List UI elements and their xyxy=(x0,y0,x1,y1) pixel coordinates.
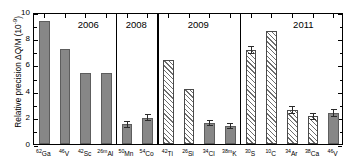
plot-area xyxy=(33,13,343,145)
error-bar-cap-bottom xyxy=(310,119,316,120)
x-label-element: V xyxy=(333,150,337,157)
bar xyxy=(184,89,195,144)
bar xyxy=(142,118,153,144)
error-bar-cap-bottom xyxy=(248,53,254,54)
bar xyxy=(163,60,174,144)
x-tick-mark xyxy=(251,14,252,18)
x-label-element: S xyxy=(251,150,255,157)
error-bar-cap-bottom xyxy=(289,113,295,114)
bar xyxy=(287,110,298,144)
error-bar-cap-top xyxy=(310,113,316,114)
y-tick-mark xyxy=(34,66,38,67)
y-minor-tick-mark xyxy=(34,106,37,107)
error-bar-cap-bottom xyxy=(227,128,233,129)
x-label-mass-number: 38m xyxy=(222,148,232,154)
error-bar-cap-top xyxy=(124,121,130,122)
bar xyxy=(80,73,91,144)
error-bar xyxy=(331,109,337,117)
y-tick-mark xyxy=(338,40,342,41)
y-minor-tick-mark xyxy=(340,106,343,107)
x-tick-mark xyxy=(168,14,169,18)
error-bar-cap-bottom xyxy=(124,127,130,128)
y-minor-tick-mark xyxy=(34,132,37,133)
x-tick-mark xyxy=(313,14,314,18)
error-bar-cap-top xyxy=(248,46,254,47)
group-year-label-2011: 2011 xyxy=(252,19,355,30)
error-bar-cap-top xyxy=(289,106,295,107)
y-tick-mark xyxy=(338,14,342,15)
error-bar-cap-bottom xyxy=(207,125,213,126)
error-bar-cap-top xyxy=(227,123,233,124)
x-tick-mark xyxy=(147,14,148,18)
group-year-label-2009: 2009 xyxy=(157,19,240,30)
y-tick-label: 2 xyxy=(0,114,30,122)
y-axis-title-suffix: ) xyxy=(13,16,23,19)
y-tick-mark xyxy=(338,146,342,147)
error-bar xyxy=(310,113,316,120)
bar xyxy=(266,31,277,144)
group-separator xyxy=(116,14,117,144)
x-tick-mark xyxy=(85,14,86,18)
y-tick-mark xyxy=(338,93,342,94)
y-tick-mark xyxy=(34,119,38,120)
x-tick-mark xyxy=(271,14,272,18)
y-tick-label: 10 xyxy=(0,9,30,17)
x-tick-mark xyxy=(189,14,190,18)
x-tick-mark xyxy=(230,14,231,18)
error-bar-cap-top xyxy=(331,109,337,110)
y-axis-title-container: Relative precision ΔQ/M (10-9) xyxy=(0,0,18,152)
y-tick-label: 8 xyxy=(0,35,30,43)
y-minor-tick-mark xyxy=(34,27,37,28)
x-label-element: Cl xyxy=(208,150,214,157)
y-axis-title-exponent: -9 xyxy=(11,19,18,25)
y-axis-title: Relative precision ΔQ/M (10-9) xyxy=(11,0,23,147)
y-minor-tick-mark xyxy=(340,132,343,133)
x-tick-label: 46V xyxy=(319,149,347,158)
x-tick-mark xyxy=(127,14,128,18)
error-bar xyxy=(248,46,254,54)
y-tick-label: 6 xyxy=(0,61,30,69)
x-tick-mark xyxy=(292,14,293,18)
bar xyxy=(328,113,339,144)
x-label-element: Si xyxy=(188,150,194,157)
y-minor-tick-mark xyxy=(34,80,37,81)
x-tick-mark xyxy=(65,14,66,18)
bar xyxy=(60,49,71,144)
error-bar xyxy=(227,123,233,130)
group-separator xyxy=(240,14,241,144)
y-tick-label: 4 xyxy=(0,88,30,96)
x-tick-mark xyxy=(333,14,334,18)
y-tick-mark xyxy=(338,66,342,67)
y-tick-mark xyxy=(34,146,38,147)
y-minor-tick-mark xyxy=(340,53,343,54)
group-year-label-2008: 2008 xyxy=(116,19,157,30)
bar xyxy=(246,50,257,144)
y-tick-label: 0 xyxy=(0,141,30,149)
x-label-element: V xyxy=(65,150,69,157)
group-separator xyxy=(157,14,158,144)
error-bar-cap-top xyxy=(207,120,213,121)
bar xyxy=(101,73,112,144)
x-label-element: Ti xyxy=(168,150,173,157)
error-bar xyxy=(289,106,295,114)
x-label-element: Ar xyxy=(291,150,298,157)
x-label-mass-number: 26m xyxy=(97,148,107,154)
x-tick-mark xyxy=(106,14,107,18)
error-bar xyxy=(145,114,151,121)
y-tick-mark xyxy=(34,93,38,94)
figure-bar-chart: Relative precision ΔQ/M (10-9) 024681062… xyxy=(0,0,358,168)
y-minor-tick-mark xyxy=(34,53,37,54)
x-label-element: Sc xyxy=(84,150,92,157)
bar xyxy=(308,116,319,144)
y-minor-tick-mark xyxy=(340,80,343,81)
error-bar xyxy=(124,121,130,128)
error-bar-cap-top xyxy=(145,114,151,115)
error-bar xyxy=(207,120,213,127)
x-label-element: C xyxy=(271,150,276,157)
error-bar-cap-bottom xyxy=(145,120,151,121)
error-bar-cap-bottom xyxy=(331,116,337,117)
y-tick-mark xyxy=(34,40,38,41)
bar xyxy=(39,21,50,144)
y-tick-mark xyxy=(34,14,38,15)
x-tick-mark xyxy=(44,14,45,18)
